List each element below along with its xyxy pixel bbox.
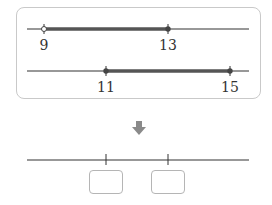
number-line-2	[27, 66, 249, 76]
closed-point-11	[103, 68, 108, 73]
label-11: 11	[97, 80, 115, 94]
closed-point-13	[165, 26, 170, 31]
answer-box-2[interactable]	[151, 170, 185, 194]
number-line-1	[27, 24, 249, 34]
closed-point-15	[227, 68, 232, 73]
label-13: 13	[159, 38, 177, 52]
number-lines	[0, 0, 272, 205]
arrow-down-icon	[132, 121, 146, 135]
result-number-line	[27, 154, 249, 165]
answer-box-1[interactable]	[89, 170, 123, 194]
label-15: 15	[221, 80, 239, 94]
open-point-9	[42, 27, 47, 32]
label-9: 9	[40, 38, 49, 52]
